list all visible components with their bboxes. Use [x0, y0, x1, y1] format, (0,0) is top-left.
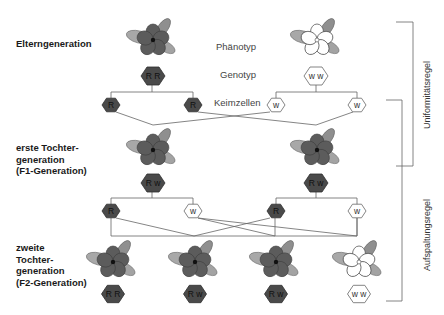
allele-text: R R	[146, 71, 161, 81]
genotype-parent: R R	[141, 67, 165, 85]
cross-line	[275, 218, 357, 236]
rule-uniformity-label: Uniformitätsregel	[422, 61, 432, 129]
flower-f2-white	[331, 238, 383, 279]
bracket-segregation	[386, 100, 402, 301]
flower-f2-dark	[85, 238, 137, 279]
connector	[111, 198, 193, 205]
allele-text: R	[108, 206, 114, 216]
allele-text: R w	[269, 289, 285, 299]
genotype-f2: R w	[265, 285, 288, 302]
allele-text: R	[273, 206, 279, 216]
gamete-parent: w	[348, 98, 366, 112]
allele-text: R R	[106, 289, 121, 299]
genotype-f1: R w	[141, 174, 165, 192]
allele-text: w	[189, 206, 197, 216]
flower-f2-dark	[248, 238, 300, 279]
gamete-parent: R	[102, 98, 120, 112]
cross-line	[153, 112, 270, 125]
connector	[276, 198, 357, 205]
gamete-f1: R	[267, 204, 285, 218]
bracket-uniformity	[396, 22, 413, 166]
gamete-f1: w	[184, 204, 202, 218]
flower-parent-white	[289, 16, 341, 57]
connector	[111, 92, 193, 98]
flower-f1-dark	[125, 126, 177, 167]
allele-text: R	[108, 100, 114, 110]
cross-line	[116, 112, 153, 125]
gamete-f1: R	[102, 204, 120, 218]
rule-segregation-label: Aufspaltungsregel	[422, 199, 432, 271]
allele-text: w w	[308, 71, 325, 81]
allele-text: R w	[309, 178, 325, 188]
allele-text: w	[353, 100, 361, 110]
inheritance-diagram: R RRRw wwwR wRwR wRwR RR wR ww w Uniform…	[0, 0, 444, 315]
gamete-parent: R	[184, 98, 202, 112]
genotype-parent: w w	[304, 67, 328, 85]
cross-line	[198, 218, 357, 236]
allele-text: w	[353, 206, 361, 216]
flower-f2-dark	[167, 238, 219, 279]
cross-line	[116, 218, 194, 236]
cross-line	[316, 112, 353, 125]
genotype-f2: R R	[102, 285, 125, 302]
genotype-f2: R w	[184, 285, 207, 302]
connector	[276, 92, 357, 98]
cross-line	[194, 218, 270, 236]
cross-line	[198, 112, 316, 125]
genotype-f1: R w	[304, 174, 328, 192]
rule-brackets	[386, 22, 413, 301]
gamete-f1: w	[348, 204, 366, 218]
cross-line	[198, 218, 275, 236]
genotype-f2: w w	[348, 285, 371, 302]
gamete-parent: w	[267, 98, 285, 112]
allele-text: w	[272, 100, 280, 110]
allele-text: R w	[188, 289, 204, 299]
flower-f1-dark	[289, 126, 341, 167]
cross-line	[111, 218, 275, 236]
allele-text: R w	[146, 178, 162, 188]
allele-text: w w	[351, 289, 368, 299]
flower-parent-dark	[125, 16, 177, 57]
allele-text: R	[190, 100, 196, 110]
